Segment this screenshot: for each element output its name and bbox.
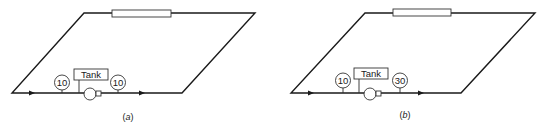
heater-element-b [393, 9, 451, 16]
panel-a: 10 Tank 10 (a) [12, 10, 255, 122]
flow-arrow-icon [29, 91, 35, 96]
panel-caption-b: (b) [399, 110, 410, 120]
pump-icon [84, 88, 96, 100]
panel-b: 10 Tank 30 (b) [291, 9, 535, 120]
tank-label: Tank [81, 69, 101, 80]
flow-arrow-icon [418, 91, 424, 96]
pump-motor-icon [376, 91, 381, 96]
gauge-left-value: 10 [57, 77, 68, 88]
panel-caption-a: (a) [122, 112, 133, 122]
pipe-loop-b [291, 13, 535, 93]
flow-arrow-icon [139, 91, 145, 96]
diagram-stage: 10 Tank 10 (a) 10 Tank 30 ( [0, 0, 538, 129]
tank-label: Tank [361, 68, 381, 79]
pump-icon [364, 88, 376, 100]
piping-diagram: 10 Tank 10 (a) 10 Tank 30 ( [0, 0, 538, 129]
gauge-right-value: 30 [395, 75, 406, 86]
pump-motor-icon [96, 91, 101, 96]
gauge-right-value: 10 [113, 77, 124, 88]
heater-element-a [112, 10, 171, 17]
gauge-left-value: 10 [338, 75, 349, 86]
flow-arrow-icon [308, 91, 314, 96]
pipe-loop-a [12, 13, 255, 93]
